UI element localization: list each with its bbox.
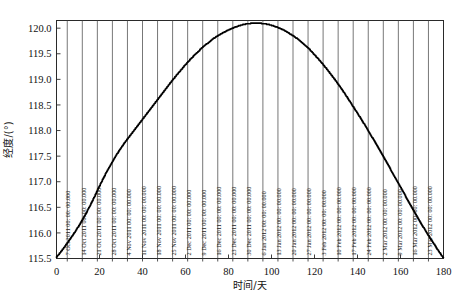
date-gridline-label: 4 Nov 2011 00: 00: 00.000 xyxy=(125,189,132,255)
date-gridline-label: 23 Mar 2012 00: 00: 00.000 xyxy=(426,186,433,255)
date-gridline-label: 27 Jan 2012 00: 00: 00.000 xyxy=(305,188,312,255)
date-gridline-label: 2 Mar 2012 00: 00: 00.000 xyxy=(381,189,388,255)
date-gridline-label: 24 Feb 2012 00: 00: 00.000 xyxy=(365,187,372,255)
y-axis-tick-label: 118.0 xyxy=(28,125,51,136)
x-axis-tick-label: 120 xyxy=(307,266,323,277)
y-axis-tick-label: 120.0 xyxy=(28,23,52,34)
y-axis-title: 经度/(°) xyxy=(2,121,14,157)
x-axis-tick-label: 60 xyxy=(180,266,191,277)
date-gridline-label: 25 Nov 2011 00: 00: 00.000 xyxy=(170,186,177,256)
x-axis-tick-label: 40 xyxy=(137,266,148,277)
y-axis-tick-label: 115.5 xyxy=(28,253,51,264)
date-gridline-label: 16 Dec 2011 00: 00: 00.000 xyxy=(215,187,222,256)
y-axis-tick-label: 116.0 xyxy=(28,228,51,239)
date-gridline-label: 2 Dec 2011 00: 00: 00.000 xyxy=(185,190,192,256)
x-axis-title: 时间/天 xyxy=(233,279,266,291)
longitude-vs-time-chart: 115.5116.0116.5117.0117.5118.0118.5119.0… xyxy=(0,0,456,292)
date-gridline-label: 13 Jan 2012 00: 00: 00.000 xyxy=(275,188,282,255)
x-axis-tick-label: 20 xyxy=(94,266,105,277)
y-axis-tick-label: 119.5 xyxy=(28,48,51,59)
x-axis-tick-label: 160 xyxy=(393,266,409,277)
y-axis-tick-label: 116.5 xyxy=(28,202,51,213)
date-gridline-label: 9 Dec 2011 00: 00: 00.000 xyxy=(200,190,207,256)
date-gridline-label: 21 Oct 2011 00: 00: 00.000 xyxy=(95,188,102,256)
x-axis-tick-label: 180 xyxy=(436,266,452,277)
y-axis-tick-label: 117.0 xyxy=(28,176,51,187)
date-gridline-label: 9 Mar 2012 00: 00: 00.000 xyxy=(396,189,403,255)
y-axis-tick-label: 118.5 xyxy=(28,100,51,111)
date-gridline-label: 10 Feb 2012 00: 00: 00.000 xyxy=(335,187,342,255)
date-gridline-label: 16 Mar 2012 00: 00: 00.000 xyxy=(411,186,418,255)
x-axis-tick-label: 140 xyxy=(350,266,366,277)
date-gridline-label: 23 Dec 2011 00: 00: 00.000 xyxy=(230,187,237,256)
date-gridline-label: 3 Feb 2012 00: 00: 00.000 xyxy=(320,190,327,255)
x-axis-tick-label: 100 xyxy=(264,266,280,277)
x-axis-tick-label: 80 xyxy=(223,266,234,277)
date-gridline-label: 30 Dec 2011 00: 00: 00.000 xyxy=(245,187,252,256)
y-axis-tick-label: 119.0 xyxy=(28,74,51,85)
date-gridline-label: 18 Nov 2011 00: 00: 00.000 xyxy=(155,186,162,256)
y-axis-tick-label: 117.5 xyxy=(28,151,51,162)
date-gridline-label: 20 Jan 2012 00: 00: 00.000 xyxy=(290,188,297,255)
date-gridline-label: 28 Oct 2011 00: 00: 00.000 xyxy=(110,188,117,256)
x-axis-tick-label: 0 xyxy=(54,266,59,277)
date-gridline-label: 11 Nov 2011 00: 00: 00.000 xyxy=(140,186,147,255)
date-gridline-label: 6 Jan 2012 00: 00: 00.000 xyxy=(260,191,267,255)
date-gridline-label: 17 Feb 2012 00: 00: 00.000 xyxy=(350,187,357,255)
